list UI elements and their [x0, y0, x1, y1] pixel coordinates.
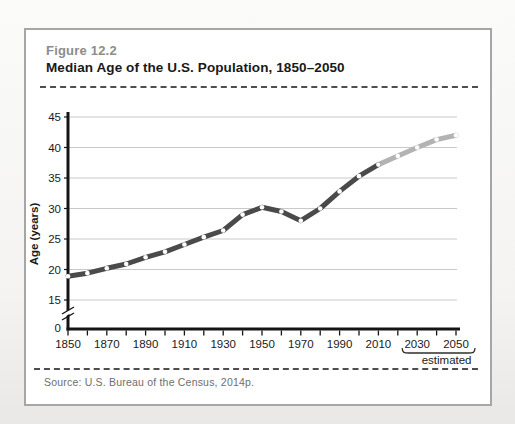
svg-text:2050: 2050: [443, 338, 469, 350]
svg-text:40: 40: [48, 142, 61, 154]
svg-text:1990: 1990: [327, 338, 353, 350]
svg-text:2010: 2010: [366, 338, 392, 350]
source-text: Source: U.S. Bureau of the Census, 2014p…: [44, 376, 254, 388]
figure-label: Figure 12.2: [46, 43, 117, 58]
svg-text:35: 35: [48, 172, 61, 184]
svg-text:1910: 1910: [172, 338, 198, 350]
svg-text:25: 25: [48, 233, 61, 245]
svg-text:Age (years): Age (years): [28, 203, 40, 266]
svg-text:1870: 1870: [94, 338, 120, 350]
figure-box: Figure 12.2 Median Age of the U.S. Popul…: [24, 28, 492, 406]
bottom-dashed-divider: [34, 368, 478, 370]
svg-text:1970: 1970: [288, 338, 314, 350]
svg-text:20: 20: [48, 264, 61, 276]
svg-text:estimated: estimated: [422, 354, 472, 366]
svg-text:1890: 1890: [133, 338, 159, 350]
svg-text:45: 45: [48, 111, 61, 123]
top-dashed-divider: [40, 86, 478, 88]
svg-text:1950: 1950: [249, 338, 275, 350]
svg-text:15: 15: [48, 294, 61, 306]
svg-text:0: 0: [55, 322, 61, 334]
svg-text:1850: 1850: [55, 338, 81, 350]
svg-text:30: 30: [48, 203, 61, 215]
svg-text:2030: 2030: [404, 338, 430, 350]
median-age-chart: 0152025303540451850187018901910193019501…: [26, 99, 490, 367]
figure-title: Median Age of the U.S. Population, 1850–…: [46, 60, 345, 76]
svg-text:1930: 1930: [210, 338, 236, 350]
